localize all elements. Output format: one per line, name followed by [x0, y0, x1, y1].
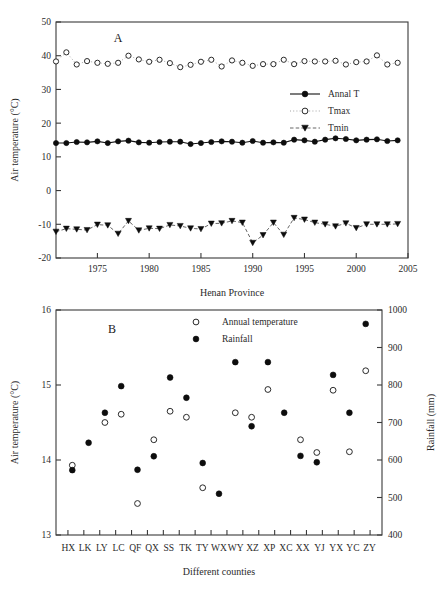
tmax-point: [147, 59, 152, 64]
x-tick-label: 1990: [243, 264, 262, 274]
x-tick-label: 2005: [399, 264, 418, 274]
tmax-point: [281, 57, 286, 62]
annual-t-point: [126, 138, 131, 143]
x-category-label: WX: [211, 543, 227, 553]
legend-marker-annual-temperature: [193, 319, 199, 325]
annual-temperature-point: [184, 414, 190, 420]
annual-t-point: [271, 140, 276, 145]
annual-t-point: [281, 140, 286, 145]
y2-tick-label: 900: [388, 343, 403, 353]
rainfall-point: [314, 459, 320, 465]
panel-b-x-axis-label: Different counties: [183, 566, 255, 577]
rainfall-point: [200, 460, 206, 466]
annual-t-point: [302, 138, 307, 143]
tmax-point: [53, 59, 58, 64]
x-tick-label: 1995: [295, 264, 314, 274]
annual-t-point: [105, 140, 110, 145]
annual-t-point: [147, 140, 152, 145]
y-tick-label: 0: [46, 186, 51, 196]
annual-t-point: [84, 140, 89, 145]
rainfall-point: [102, 410, 108, 416]
x-category-label: LY: [96, 543, 108, 553]
annual-t-point: [229, 139, 234, 144]
annual-temperature-point: [347, 449, 353, 455]
y-tick-label: 40: [42, 51, 52, 61]
y-tick-label: 13: [42, 530, 52, 540]
annual-t-point: [385, 138, 390, 143]
rainfall-point: [135, 467, 141, 473]
rainfall-point: [330, 372, 336, 378]
tmin-point: [333, 224, 339, 229]
y2-tick-label: 600: [388, 455, 403, 465]
rainfall-point: [118, 383, 124, 389]
panel-a-plot: -20-100102030405019751980198519901995200…: [0, 0, 448, 302]
tmax-point: [260, 62, 265, 67]
annual-t-point: [209, 139, 214, 144]
tmin-point: [281, 232, 287, 237]
tmax-point: [64, 50, 69, 55]
annual-t-point: [178, 139, 183, 144]
tmax-point: [354, 60, 359, 65]
figure-container: -20-100102030405019751980198519901995200…: [0, 0, 448, 604]
x-category-label: YX: [329, 543, 343, 553]
x-category-label: LC: [113, 543, 125, 553]
tmax-point: [229, 58, 234, 63]
y-tick-label: 16: [42, 305, 52, 315]
panel-b-y2-axis-label: Rainfall (mm): [425, 394, 437, 451]
y2-tick-label: 800: [388, 380, 403, 390]
rainfall-point: [86, 440, 92, 446]
annual-temperature-point: [232, 410, 238, 416]
legend-marker-tmax: [302, 108, 308, 114]
annual-t-point: [219, 139, 224, 144]
tmax-point: [126, 53, 131, 58]
rainfall-point: [184, 395, 190, 401]
rainfall-point: [69, 467, 75, 473]
rainfall-point: [298, 453, 304, 459]
tmax-point: [333, 58, 338, 63]
y2-tick-label: 1000: [388, 305, 407, 315]
annual-t-point: [116, 139, 121, 144]
annual-temperature-point: [298, 437, 304, 443]
tmax-point: [219, 64, 224, 69]
x-category-label: YJ: [314, 543, 325, 553]
tmax-point: [364, 59, 369, 64]
x-category-label: YC: [346, 543, 359, 553]
tmax-point: [374, 53, 379, 58]
annual-temperature-point: [102, 420, 108, 426]
x-tick-label: 2000: [347, 264, 366, 274]
y-tick-label: 20: [42, 119, 52, 129]
y2-tick-label: 500: [388, 493, 403, 503]
tmax-point: [250, 63, 255, 68]
legend-label-2: Tmin: [328, 123, 349, 133]
panel-a-letter: A: [114, 31, 123, 45]
y2-tick-label: 700: [388, 418, 403, 428]
rainfall-point: [281, 410, 287, 416]
annual-temperature-point: [200, 485, 206, 491]
tmax-point: [209, 57, 214, 62]
annual-temperature-point: [135, 501, 141, 507]
annual-temperature-point: [249, 414, 255, 420]
rainfall-point: [265, 359, 271, 365]
tmax-point: [395, 60, 400, 65]
x-tick-label: 1980: [140, 264, 159, 274]
tmin-point: [53, 229, 59, 234]
rainfall-point: [167, 375, 173, 381]
tmin-point: [136, 228, 142, 233]
annual-t-point: [95, 139, 100, 144]
tmax-point: [198, 59, 203, 64]
annual-t-point: [198, 140, 203, 145]
y-tick-label: 30: [42, 85, 52, 95]
rainfall-point: [151, 453, 157, 459]
y-tick-label: 14: [42, 455, 52, 465]
tmin-point: [250, 240, 256, 245]
x-category-label: HX: [62, 543, 76, 553]
tmin-point: [364, 222, 370, 227]
tmax-point: [323, 59, 328, 64]
y-tick-label: 10: [42, 152, 52, 162]
annual-t-point: [157, 139, 162, 144]
rainfall-point: [347, 410, 353, 416]
x-category-label: QX: [145, 543, 159, 553]
annual-t-point: [260, 140, 265, 145]
panel-b-letter: B: [108, 322, 116, 336]
tmax-point: [95, 60, 100, 65]
